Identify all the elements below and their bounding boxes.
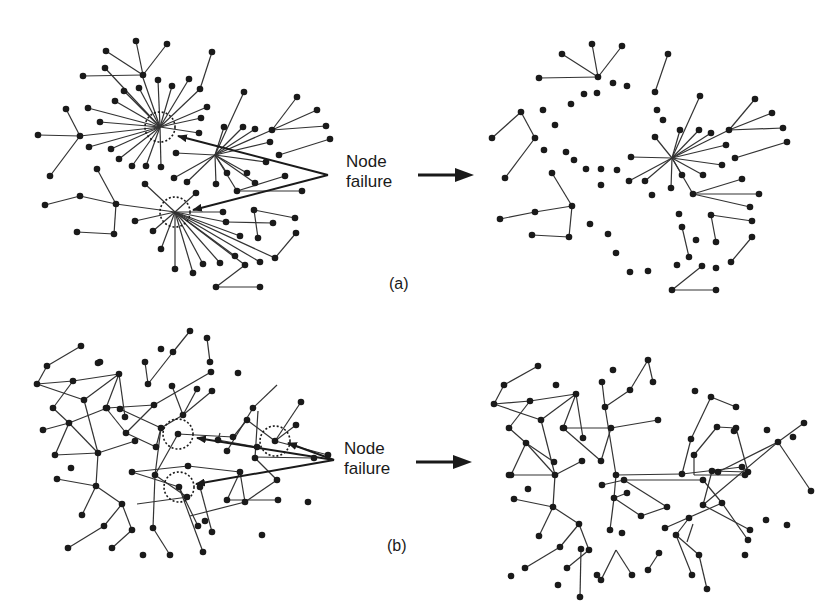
edge [614,498,641,516]
node [150,525,157,532]
node [677,127,684,134]
edge [215,130,272,155]
node [136,85,143,92]
edge [602,480,624,485]
node [129,469,136,476]
node [628,154,635,161]
node [668,185,675,192]
edge [605,390,630,407]
edge [731,237,752,262]
node [742,552,749,559]
node [220,209,227,216]
node [731,428,738,435]
panel-a-after [489,41,791,294]
node [697,93,704,100]
edge [226,222,273,223]
node [327,136,334,143]
node [176,484,183,491]
node [221,124,228,131]
node [213,284,220,291]
node [662,525,669,532]
node [756,191,763,198]
edge [160,127,199,133]
edge [80,196,116,204]
edge [190,502,245,516]
node [608,425,615,432]
node [536,533,543,540]
edge [98,441,135,453]
edge [255,458,277,480]
edge [560,524,579,547]
node [244,170,251,177]
node [145,381,152,388]
node [619,43,626,50]
node [113,201,120,208]
node [132,438,139,445]
edge [505,138,535,178]
node [700,172,707,179]
node [638,513,645,520]
node [749,218,756,225]
node [74,229,81,236]
edge [553,507,579,524]
edge [711,215,716,242]
node [780,125,787,132]
node [576,521,583,528]
node [541,147,548,154]
node [204,104,211,111]
edge [494,401,530,404]
edge [83,75,143,76]
edge [492,112,521,138]
edge [43,423,69,430]
node [580,435,587,442]
edge [155,428,161,475]
node [598,166,605,173]
node [589,41,596,48]
node [564,565,571,572]
edge [580,549,581,597]
node [665,51,672,58]
edge [509,428,526,443]
edge [504,366,538,385]
node [184,179,191,186]
node [649,192,656,199]
node [742,472,749,479]
node [104,405,111,412]
edge [254,210,295,218]
node [568,101,575,108]
node [200,261,207,268]
node [259,532,266,539]
node [169,83,176,90]
edge [116,204,175,212]
node [109,545,116,552]
node [749,234,756,241]
node [44,363,51,370]
node [690,191,697,198]
node [540,107,547,114]
node [193,190,200,197]
node [244,417,251,424]
node [689,572,696,579]
edge [778,442,811,491]
node [235,370,242,377]
node [518,109,525,116]
node [209,49,216,56]
edge [47,346,81,366]
edge [539,77,598,78]
node [610,80,617,87]
node [549,170,556,177]
edge [173,331,190,352]
edge [275,402,301,441]
node [594,572,601,579]
node [65,545,72,552]
edge [671,158,672,188]
node [207,359,214,366]
node [571,157,578,164]
node [692,388,699,395]
edge [703,471,712,505]
node [523,440,530,447]
edge [66,109,80,136]
node [700,502,707,509]
edge [53,381,73,408]
edge [703,442,778,505]
